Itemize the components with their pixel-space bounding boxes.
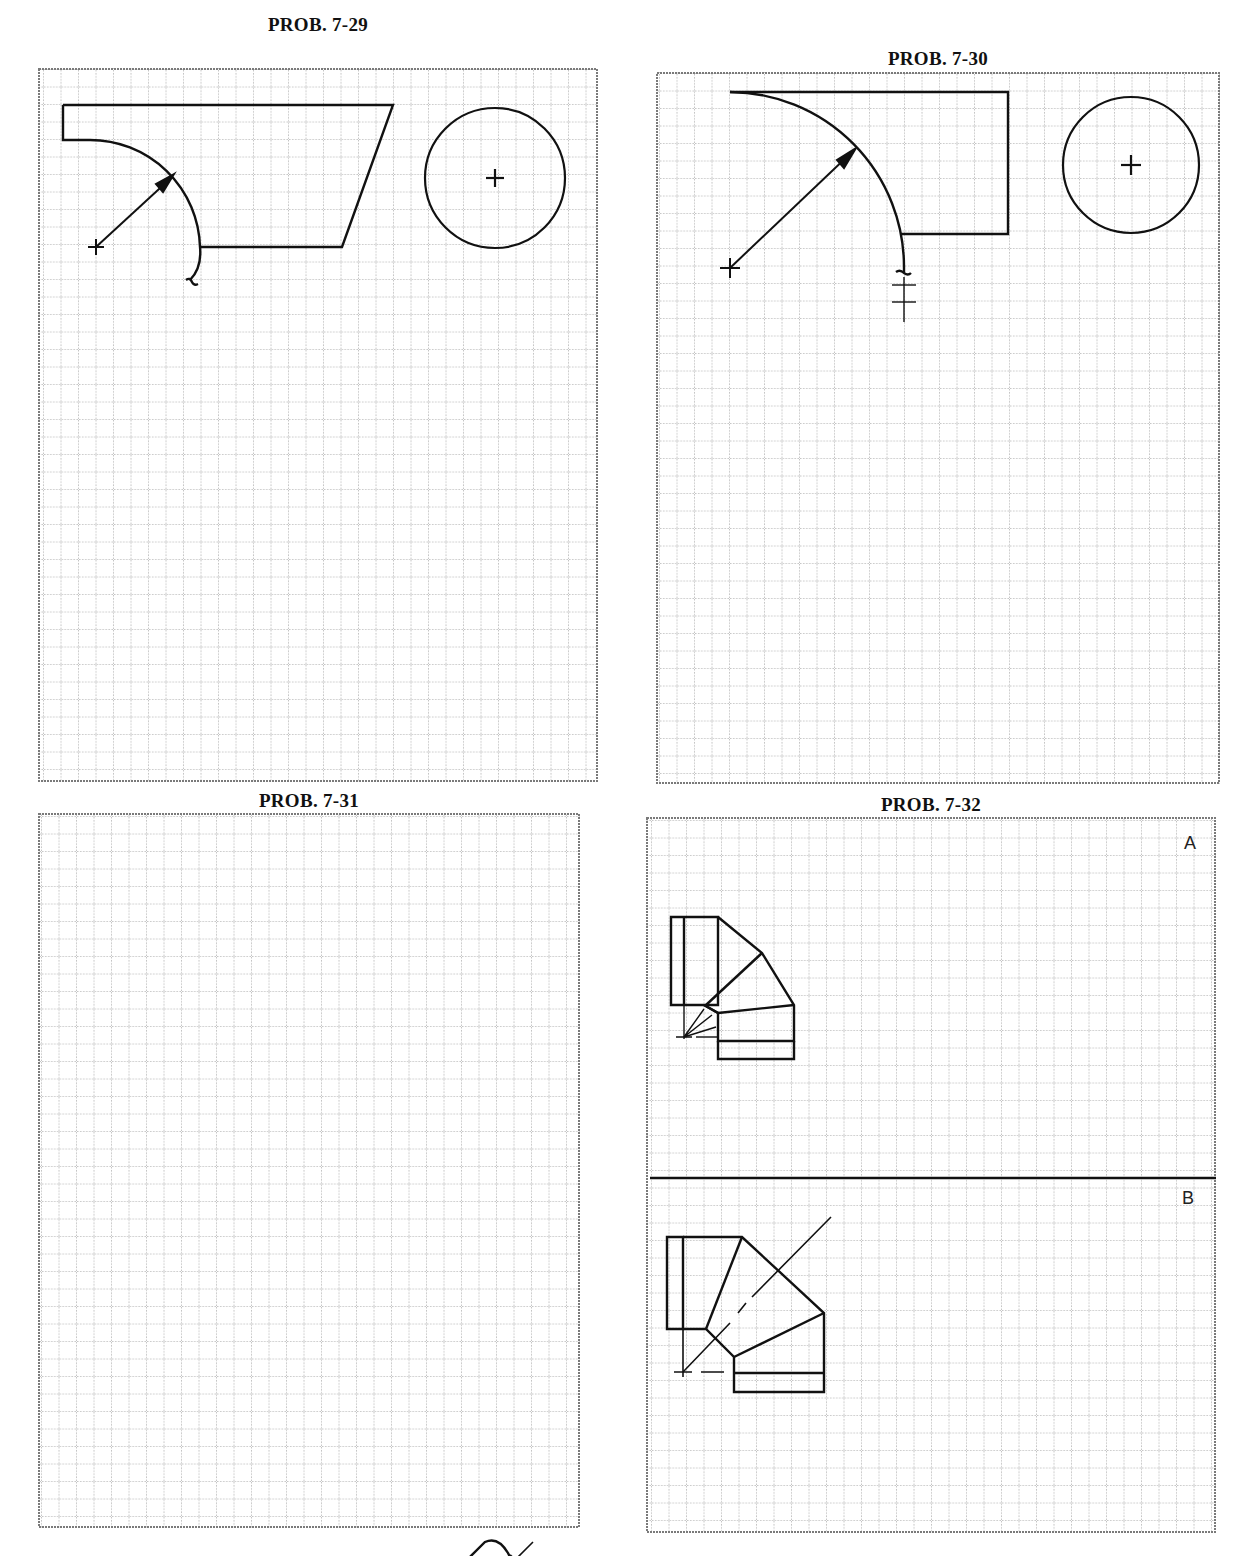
label-b: B xyxy=(1182,1188,1194,1208)
problem-title-7-30: PROB. 7-30 xyxy=(656,48,1220,70)
grid-panel-7-29 xyxy=(38,68,598,782)
drawing-7-31 xyxy=(38,813,580,1528)
problem-title-7-31: PROB. 7-31 xyxy=(38,790,580,812)
problem-title-7-29: PROB. 7-29 xyxy=(38,14,598,36)
drawing-7-30 xyxy=(656,72,1220,784)
drawing-7-29 xyxy=(38,68,598,782)
pipe-drawing xyxy=(317,1540,539,1556)
label-a: A xyxy=(1184,833,1196,853)
grid-panel-7-32: A B xyxy=(646,817,1216,1533)
grid-panel-7-31 xyxy=(38,813,580,1528)
problem-title-7-32: PROB. 7-32 xyxy=(646,794,1216,816)
drawing-7-32: A B xyxy=(646,817,1216,1533)
grid-panel-7-30 xyxy=(656,72,1220,784)
